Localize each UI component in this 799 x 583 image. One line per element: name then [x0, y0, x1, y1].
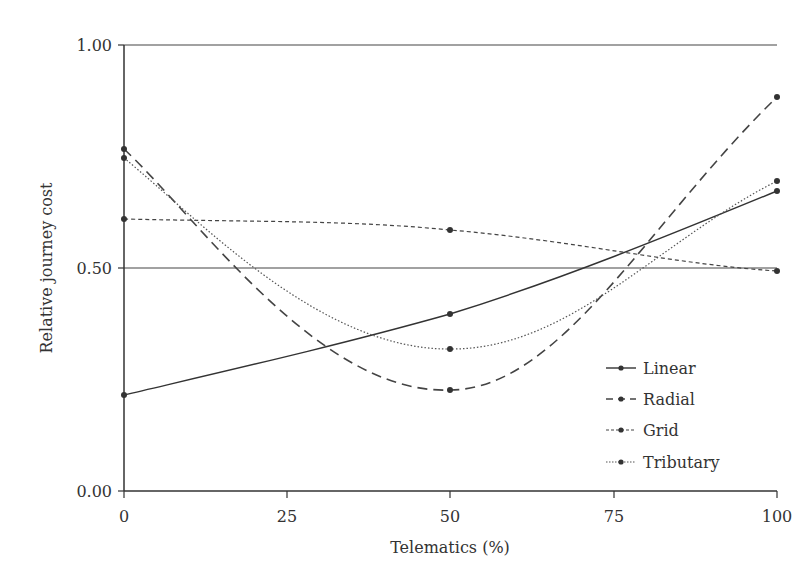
- legend-label-tributary: Tributary: [643, 453, 720, 472]
- chart-canvas: 1.00 0.50 0.00 0 25 50 75 100 Telematics…: [0, 0, 799, 583]
- y-axis-title: Relative journey cost: [37, 182, 56, 354]
- legend-label-grid: Grid: [643, 421, 679, 440]
- legend-label-radial: Radial: [643, 390, 695, 409]
- series-grid: [124, 219, 777, 271]
- y-tick-label: 1.00: [76, 36, 112, 55]
- x-tick-label: 100: [762, 507, 793, 526]
- series-tributary: [124, 158, 777, 349]
- x-axis-title: Telematics (%): [390, 538, 510, 557]
- y-tick-label: 0.50: [76, 259, 112, 278]
- y-tick-label: 0.00: [76, 482, 112, 501]
- legend-label-linear: Linear: [643, 359, 696, 378]
- data-point-markers: [121, 94, 780, 398]
- x-tick-label: 0: [119, 507, 129, 526]
- legend: Linear Radial Grid Tributary: [606, 359, 720, 472]
- x-tick-label: 50: [440, 507, 460, 526]
- x-tick-label: 25: [277, 507, 297, 526]
- x-tick-label: 75: [604, 507, 624, 526]
